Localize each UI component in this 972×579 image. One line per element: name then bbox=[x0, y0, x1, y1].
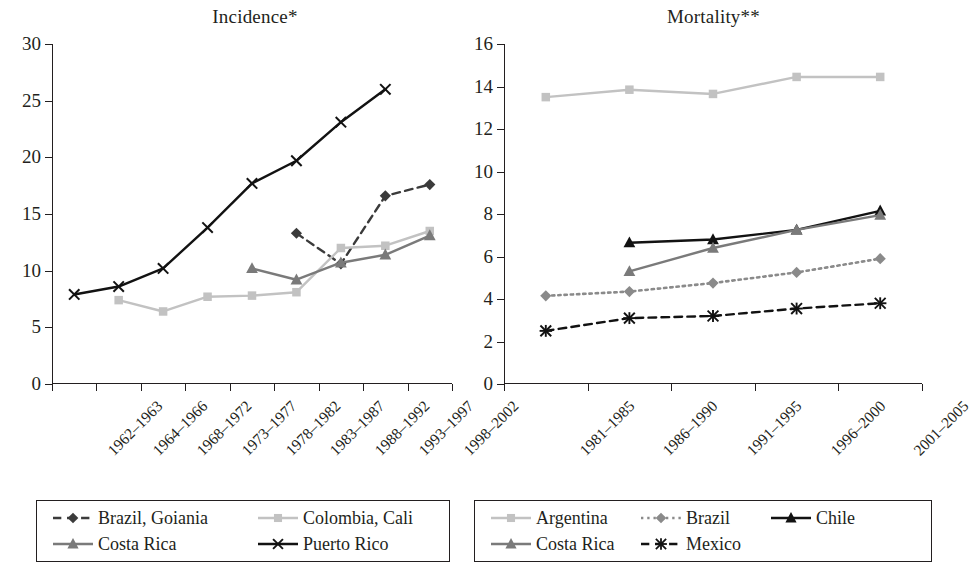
legend-label: Mexico bbox=[686, 535, 741, 553]
data-point bbox=[623, 312, 635, 324]
y-tick bbox=[497, 44, 504, 45]
legend-label: Brazil, Goiania bbox=[98, 509, 208, 527]
x-tick bbox=[363, 384, 364, 391]
y-tick bbox=[45, 271, 52, 272]
y-tick-label: 0 bbox=[484, 373, 494, 395]
data-point bbox=[336, 117, 346, 127]
incidence-panel: Incidence* 0510152025301962–19631964–196… bbox=[0, 0, 470, 579]
series-mexico bbox=[540, 297, 887, 337]
legend-item[interactable]: Mexico bbox=[639, 535, 769, 553]
x-tick bbox=[185, 384, 186, 391]
series-line bbox=[546, 259, 880, 296]
series-line bbox=[629, 215, 880, 271]
data-point bbox=[876, 73, 885, 82]
data-point bbox=[790, 303, 802, 315]
legend-label: Costa Rica bbox=[98, 535, 177, 553]
x-tick bbox=[319, 384, 320, 391]
data-point bbox=[542, 93, 551, 102]
legend-item[interactable]: Chile bbox=[769, 509, 919, 527]
y-tick-label: 5 bbox=[32, 316, 42, 338]
data-point bbox=[158, 263, 168, 273]
data-point bbox=[424, 179, 435, 190]
y-tick-label: 30 bbox=[22, 33, 41, 55]
legend-key-diamond-icon bbox=[51, 510, 95, 526]
legend-key-asterisk-icon bbox=[639, 536, 683, 552]
legend-key-square-icon bbox=[489, 510, 533, 526]
x-tick-label: 1981–1985 bbox=[576, 397, 638, 459]
legend-label: Colombia, Cali bbox=[303, 509, 413, 527]
y-tick-label: 25 bbox=[22, 90, 41, 112]
data-point bbox=[625, 85, 634, 94]
data-point bbox=[791, 267, 802, 278]
x-tick bbox=[408, 384, 409, 391]
data-point bbox=[540, 325, 552, 337]
series-layer bbox=[504, 44, 922, 384]
y-tick bbox=[45, 214, 52, 215]
x-tick bbox=[52, 384, 53, 391]
legend-key-diamond-icon bbox=[639, 510, 683, 526]
y-tick bbox=[45, 327, 52, 328]
y-tick bbox=[497, 384, 504, 385]
series-line bbox=[296, 185, 429, 264]
data-point bbox=[114, 296, 123, 305]
y-tick bbox=[497, 87, 504, 88]
series-colombia-cali bbox=[114, 227, 434, 316]
legend-item[interactable]: Brazil, Goiania bbox=[51, 509, 256, 527]
legend-key-triangle-icon bbox=[769, 510, 813, 526]
data-point bbox=[337, 244, 346, 253]
legend-item[interactable]: Costa Rica bbox=[489, 535, 639, 553]
data-point bbox=[248, 291, 257, 300]
y-tick-label: 8 bbox=[484, 203, 494, 225]
mortality-legend: ArgentinaBrazilChileCosta RicaMexico bbox=[474, 500, 932, 562]
series-layer bbox=[52, 44, 452, 384]
x-tick bbox=[922, 384, 923, 391]
data-point bbox=[792, 73, 801, 82]
legend-item[interactable]: Costa Rica bbox=[51, 535, 256, 553]
incidence-legend-grid: Brazil, GoianiaColombia, CaliCosta RicaP… bbox=[37, 501, 449, 561]
legend-key-square-icon bbox=[256, 510, 300, 526]
x-tick bbox=[671, 384, 672, 391]
x-tick bbox=[141, 384, 142, 391]
x-tick-label: 2001–2005 bbox=[910, 397, 972, 459]
mortality-legend-grid: ArgentinaBrazilChileCosta RicaMexico bbox=[475, 501, 931, 561]
series-brazil-goiania bbox=[291, 179, 436, 270]
x-tick bbox=[452, 384, 453, 391]
legend-label: Puerto Rico bbox=[303, 535, 389, 553]
legend-key-triangle-icon bbox=[489, 536, 533, 552]
legend-key-triangle-icon bbox=[51, 536, 95, 552]
data-point bbox=[291, 156, 301, 166]
series-chile bbox=[624, 205, 887, 248]
data-point bbox=[380, 84, 390, 94]
data-point bbox=[202, 222, 212, 232]
data-point bbox=[203, 292, 212, 301]
x-tick bbox=[838, 384, 839, 391]
y-tick-label: 0 bbox=[32, 373, 42, 395]
legend-item[interactable]: Puerto Rico bbox=[256, 535, 461, 553]
y-tick bbox=[497, 342, 504, 343]
data-point bbox=[709, 90, 718, 99]
legend-item[interactable]: Brazil bbox=[639, 509, 769, 527]
y-tick bbox=[45, 44, 52, 45]
y-tick-label: 2 bbox=[484, 331, 494, 353]
legend-item[interactable]: Argentina bbox=[489, 509, 639, 527]
data-point bbox=[292, 288, 301, 297]
data-point bbox=[159, 307, 168, 316]
x-tick bbox=[588, 384, 589, 391]
y-tick-label: 6 bbox=[484, 246, 494, 268]
y-tick-label: 10 bbox=[474, 161, 493, 183]
mortality-panel: Mortality** 02468101214161981–19851986–1… bbox=[460, 0, 947, 579]
y-tick bbox=[497, 214, 504, 215]
y-tick-label: 14 bbox=[474, 76, 493, 98]
incidence-plot-area: 0510152025301962–19631964–19661968–19721… bbox=[52, 44, 452, 384]
legend-item[interactable]: Colombia, Cali bbox=[256, 509, 461, 527]
y-tick bbox=[497, 257, 504, 258]
x-tick bbox=[504, 384, 505, 391]
y-tick bbox=[497, 129, 504, 130]
series-brazil bbox=[540, 253, 886, 301]
data-point bbox=[247, 178, 257, 188]
legend-label: Argentina bbox=[536, 509, 608, 527]
x-tick-label: 1986–1990 bbox=[660, 397, 722, 459]
legend-label: Chile bbox=[816, 509, 855, 527]
y-tick bbox=[497, 172, 504, 173]
